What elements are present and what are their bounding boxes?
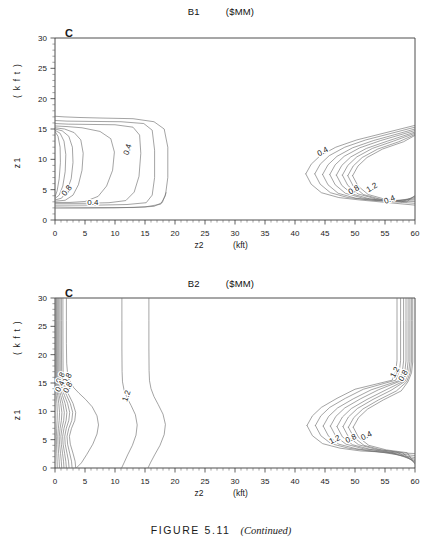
contour-line xyxy=(330,298,406,426)
y-tick-label: 25 xyxy=(38,322,47,331)
contour-line xyxy=(330,131,415,175)
contour-label: 1.2 xyxy=(328,433,342,446)
x-tick-label: 20 xyxy=(171,477,180,486)
x-tick-label: 40 xyxy=(291,477,300,486)
x-tick-label: 5 xyxy=(83,229,88,238)
y-tick-label: 25 xyxy=(38,64,47,73)
x-tick-label: 25 xyxy=(201,477,210,486)
y-tick-label: 5 xyxy=(43,436,48,445)
x-tick-label: 5 xyxy=(83,477,88,486)
x-tick-label: 40 xyxy=(291,229,300,238)
x-tick-label: 35 xyxy=(261,229,270,238)
contour-label: 1.2 xyxy=(365,181,380,195)
y-tick-label: 0 xyxy=(43,464,48,473)
contour-line xyxy=(66,298,98,468)
panel-letter: C xyxy=(65,287,73,299)
figure-5-11: B1($MM) 05101520253035404550556005101520… xyxy=(0,0,442,554)
y-axis-label: z1 xyxy=(12,156,22,168)
x-tick-label: 10 xyxy=(111,477,120,486)
contour-line xyxy=(55,131,60,197)
y-axis-unit: ( k f t ) xyxy=(12,320,22,355)
x-tick-label: 45 xyxy=(321,229,330,238)
contour-panel-b1: B1($MM) 05101520253035404550556005101520… xyxy=(0,0,442,272)
x-tick-label: 30 xyxy=(231,477,240,486)
x-axis-label: z2 xyxy=(195,240,204,250)
x-tick-label: 25 xyxy=(201,229,210,238)
contour-label: 0.4 xyxy=(316,145,331,158)
x-tick-label: 20 xyxy=(171,229,180,238)
y-tick-label: 20 xyxy=(38,95,47,104)
contour-line xyxy=(348,427,415,463)
x-tick-label: 30 xyxy=(231,229,240,238)
x-tick-label: 10 xyxy=(111,229,120,238)
contour-lines xyxy=(56,298,415,468)
contour-line xyxy=(148,298,165,468)
contour-label: 0.4 xyxy=(122,142,134,156)
contour-label: 0.4 xyxy=(87,198,99,207)
x-axis-unit: (kft) xyxy=(233,240,248,250)
y-tick-label: 0 xyxy=(43,216,48,225)
y-axis-label: z1 xyxy=(12,408,22,420)
x-tick-label: 0 xyxy=(53,477,58,486)
panel-letter: C xyxy=(65,27,73,39)
plot-area-b2: 051015202530354045505560051015202530z2(k… xyxy=(0,272,442,522)
contour-line xyxy=(337,298,408,427)
contour-lines xyxy=(55,116,415,208)
y-tick-label: 5 xyxy=(43,186,48,195)
contour-line xyxy=(122,298,138,468)
contour-labels: 0.40.40.80.80.40.40.40.40.80.81.21.20.40… xyxy=(60,142,397,207)
x-tick-label: 60 xyxy=(411,477,420,486)
x-tick-label: 45 xyxy=(321,477,330,486)
contour-label: 0.4 xyxy=(383,193,397,206)
x-tick-label: 35 xyxy=(261,477,270,486)
contour-panel-b2: B2($MM) 05101520253035404550556005101520… xyxy=(0,272,442,522)
contour-line xyxy=(315,298,400,426)
y-tick-label: 15 xyxy=(38,125,47,134)
y-axis-unit: ( k f t ) xyxy=(12,63,22,98)
figure-caption-note: (Continued) xyxy=(241,525,292,536)
contour-line xyxy=(323,298,403,426)
contour-label: 0.4 xyxy=(360,429,374,442)
x-tick-label: 50 xyxy=(351,477,360,486)
x-tick-label: 0 xyxy=(53,229,58,238)
y-tick-label: 30 xyxy=(38,34,47,43)
x-axis-unit: (kft) xyxy=(233,488,248,498)
x-tick-label: 15 xyxy=(141,229,150,238)
y-tick-label: 20 xyxy=(38,351,47,360)
contour-line xyxy=(55,116,168,208)
contour-line xyxy=(307,298,397,426)
y-tick-label: 30 xyxy=(38,294,47,303)
x-tick-label: 50 xyxy=(351,229,360,238)
x-tick-label: 55 xyxy=(381,229,390,238)
x-tick-label: 60 xyxy=(411,229,420,238)
contour-line xyxy=(348,298,411,427)
y-tick-label: 15 xyxy=(38,379,47,388)
figure-caption-main: FIGURE 5.11 xyxy=(151,524,231,536)
plot-area-b1: 051015202530354045505560051015202530z2(k… xyxy=(0,0,442,272)
y-tick-label: 10 xyxy=(38,407,47,416)
x-tick-label: 55 xyxy=(381,477,390,486)
axis-ticks: 051015202530354045505560051015202530 xyxy=(38,294,420,486)
contour-label: 1.2 xyxy=(120,389,132,403)
contour-label: 0.8 xyxy=(347,183,362,197)
y-tick-label: 10 xyxy=(38,155,47,164)
x-axis-label: z2 xyxy=(195,488,204,498)
figure-caption: FIGURE 5.11(Continued) xyxy=(0,524,442,536)
contour-line xyxy=(336,132,415,175)
x-tick-label: 15 xyxy=(141,477,150,486)
